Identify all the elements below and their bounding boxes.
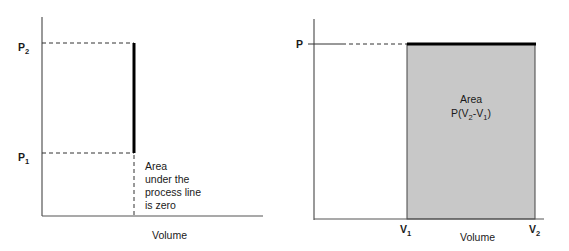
p2-label: P2 xyxy=(18,41,29,56)
pv-diagrams: P2 P1 Area under the process line is zer… xyxy=(0,0,569,251)
work-area-shaded xyxy=(407,44,535,219)
left-diagram: P2 P1 Area under the process line is zer… xyxy=(18,17,263,241)
right-x-axis-label: Volume xyxy=(460,231,495,243)
left-x-axis-label: Volume xyxy=(152,229,187,241)
annotation-line-4: is zero xyxy=(145,199,176,211)
area-title: Area xyxy=(460,93,482,105)
v2-label: V2 xyxy=(529,223,540,238)
annotation-line-1: Area xyxy=(145,160,167,172)
p1-label: P1 xyxy=(18,151,29,166)
annotation-line-3: process line xyxy=(145,186,201,198)
v1-label: V1 xyxy=(400,223,411,238)
p-label: P xyxy=(296,38,303,50)
annotation-line-2: under the xyxy=(145,173,190,185)
right-diagram: P Area P(V2-V1) V1 V2 Volume xyxy=(296,19,544,243)
